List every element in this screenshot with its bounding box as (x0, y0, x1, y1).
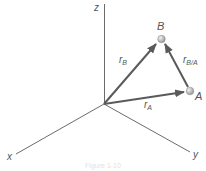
x-axis (16, 104, 104, 154)
vector-rA-label: rA (144, 100, 152, 111)
x-axis-label: x (7, 152, 12, 162)
figure-caption: Figure 1-10 (0, 162, 206, 169)
point-B-label: B (157, 21, 164, 32)
point-B (158, 35, 166, 43)
point-A (186, 87, 194, 95)
vector-rB (104, 44, 156, 104)
point-A-label: A (195, 91, 202, 102)
vector-rBA-label: rB/A (183, 55, 198, 66)
y-axis-label: y (193, 150, 198, 160)
vector-diagram (0, 0, 206, 171)
vector-rA-sub: A (147, 104, 152, 111)
vector-rB-sub: B (122, 59, 127, 66)
vector-rBA-sub: B/A (186, 59, 197, 66)
y-axis (104, 104, 190, 152)
z-axis-label: z (94, 3, 99, 13)
vector-rB-label: rB (119, 55, 127, 66)
